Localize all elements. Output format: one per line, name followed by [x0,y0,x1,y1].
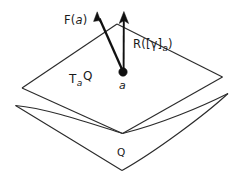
label-tangent-plane-head: T [69,72,77,86]
manifold-edge-upper-right [123,94,229,134]
label-vector-r: R([γ]a) [133,39,173,53]
label-vector-f-tail: ) [83,13,88,27]
tangent-plane-edge-bottom-left [22,88,123,134]
label-point-a: a [119,80,126,91]
tangent-plane-edge-bottom-right [123,77,223,134]
vector-f-a [94,12,123,72]
manifold-edge-lower-right [122,94,228,171]
label-vector-r-gamma: γ [151,37,158,51]
point-a-dot [119,68,127,76]
label-vector-f-arg: a [76,13,83,27]
label-vector-f-head: F( [64,13,76,27]
vector-r-gamma [119,12,128,73]
tangent-space-figure: F(a) R([γ]a) TaQ a Q [0,0,238,185]
manifold-edge-lower-left [16,106,123,171]
label-vector-r-head: R([ [133,37,151,51]
label-tangent-plane-subscript: a [77,78,83,88]
manifold-surface-q [16,94,229,171]
label-tangent-plane-tail: Q [83,69,93,83]
vector-f-shaft [100,19,124,72]
label-tangent-plane: TaQ [69,70,93,88]
label-manifold-q: Q [117,147,125,158]
label-vector-f: F(a) [64,15,87,27]
label-vector-r-tail: ) [168,37,173,51]
vector-f-arrowhead [94,12,102,24]
